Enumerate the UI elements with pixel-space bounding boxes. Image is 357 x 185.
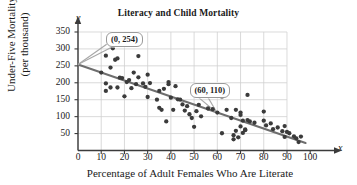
- x-axis-tick-label: 100: [300, 152, 320, 162]
- data-point: [159, 108, 163, 112]
- data-point: [108, 65, 112, 69]
- chart-figure: Literacy and Child Mortality Under-Five …: [0, 0, 357, 185]
- x-axis-tick-label: 20: [114, 152, 134, 162]
- y-axis-tick-label: 250: [44, 60, 70, 70]
- data-point: [238, 113, 242, 117]
- data-point: [231, 133, 235, 137]
- data-point: [120, 76, 124, 80]
- data-point: [183, 108, 187, 112]
- data-point: [185, 104, 189, 108]
- data-point: [231, 137, 235, 141]
- data-point: [206, 106, 210, 110]
- data-point: [245, 93, 249, 97]
- data-point: [252, 121, 256, 125]
- data-point: [134, 82, 138, 86]
- data-point: [171, 108, 175, 112]
- x-axis-tick-label: 30: [138, 152, 158, 162]
- y-axis-tick-label: 150: [44, 94, 70, 104]
- data-point: [299, 134, 303, 138]
- data-point: [166, 82, 170, 86]
- annotation-callout-1: (0, 254): [106, 32, 143, 47]
- x-axis-tick-label: 70: [231, 152, 251, 162]
- data-point: [224, 108, 228, 112]
- data-point: [104, 89, 108, 93]
- data-point: [197, 103, 201, 107]
- data-point: [262, 119, 266, 123]
- trend-line: [78, 65, 306, 144]
- data-point: [280, 129, 284, 133]
- data-point: [287, 131, 291, 135]
- data-point: [248, 119, 252, 123]
- data-point: [271, 127, 275, 131]
- data-point: [243, 128, 247, 132]
- data-point: [269, 121, 273, 125]
- y-axis-arrowhead: [75, 16, 81, 24]
- x-axis-arrowhead: [334, 147, 342, 153]
- y-axis-tick-label: 50: [44, 128, 70, 138]
- data-point: [99, 70, 103, 74]
- data-point: [283, 124, 287, 128]
- data-point: [115, 56, 119, 60]
- data-point: [264, 123, 268, 127]
- data-point: [234, 129, 238, 133]
- data-point: [143, 85, 147, 89]
- data-point: [132, 70, 136, 74]
- data-point: [211, 107, 215, 111]
- data-point: [111, 46, 115, 50]
- data-point: [180, 102, 184, 106]
- data-point: [241, 119, 245, 123]
- data-point: [169, 96, 173, 100]
- x-axis-tick-label: 90: [277, 152, 297, 162]
- data-point: [276, 125, 280, 129]
- data-point: [294, 136, 298, 140]
- data-point: [164, 119, 168, 123]
- data-point: [127, 78, 131, 82]
- x-axis-tick-label: 40: [161, 152, 181, 162]
- y-axis-tick-label: 300: [44, 43, 70, 53]
- y-axis-tick-label: 100: [44, 111, 70, 121]
- data-point: [146, 73, 150, 77]
- data-point: [283, 135, 287, 139]
- data-point: [104, 54, 108, 58]
- annotation-callout-2: (60, 110): [190, 83, 231, 98]
- data-point: [129, 86, 133, 90]
- x-axis-tick-label: 10: [91, 152, 111, 162]
- data-point: [104, 81, 108, 85]
- data-point: [296, 140, 300, 144]
- x-axis-tick-label: 80: [254, 152, 274, 162]
- data-point: [162, 87, 166, 91]
- data-point: [173, 84, 177, 88]
- data-point: [229, 116, 233, 120]
- data-point: [238, 124, 242, 128]
- x-axis-tick-label: 50: [184, 152, 204, 162]
- data-point: [215, 110, 219, 114]
- data-point: [190, 116, 194, 120]
- data-point: [157, 89, 161, 93]
- annotation-leader-line: [78, 42, 110, 64]
- data-point: [115, 85, 119, 89]
- x-axis-tick-label: 60: [207, 152, 227, 162]
- data-point: [136, 54, 140, 58]
- data-point: [220, 131, 224, 135]
- data-point: [146, 95, 150, 99]
- x-axis-tick-label: 0: [68, 152, 88, 162]
- grid-lines: [78, 32, 287, 151]
- data-point: [136, 75, 140, 79]
- data-point: [234, 108, 238, 112]
- y-axis-tick-label: 350: [44, 26, 70, 36]
- data-point: [108, 85, 112, 89]
- y-axis-tick-label: 200: [44, 77, 70, 87]
- data-point: [178, 98, 182, 102]
- data-point: [236, 135, 240, 139]
- data-point: [262, 109, 266, 113]
- data-point: [187, 112, 191, 116]
- data-point: [192, 125, 196, 129]
- data-point: [194, 109, 198, 113]
- data-point: [155, 98, 159, 102]
- data-point: [122, 94, 126, 98]
- data-point: [148, 81, 152, 85]
- data-point: [199, 114, 203, 118]
